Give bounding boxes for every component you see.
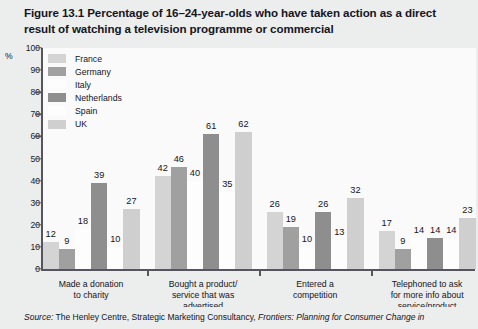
title-band: Figure 13.1 Percentage of 16–24-year-old… [0,0,478,44]
y-axis-tickmark-30 [35,202,42,203]
legend-item-netherlands[interactable]: Netherlands [48,91,158,104]
bar-germany-1[interactable]: 9 [59,249,75,269]
bar-value-label: 12 [46,229,56,239]
legend-item-italy[interactable]: Italy [48,78,158,91]
legend-swatch-uk [48,120,66,129]
x-axis-group-separator-tick [147,269,149,276]
legend-item-spain[interactable]: Spain [48,104,158,117]
bar-uk-2[interactable]: 62 [235,132,251,269]
bar-value-label: 32 [350,185,360,195]
bar-value-label: 23 [462,205,472,215]
bar-slot: 13 [331,48,347,269]
bar-france-3[interactable]: 26 [267,212,283,269]
bar-slot: 62 [235,48,251,269]
legend-label-uk: UK [75,119,87,129]
bar-uk-3[interactable]: 32 [347,198,363,269]
bar-italy-1[interactable]: 18 [75,229,91,269]
bar-value-label: 40 [190,168,200,178]
bar-slot: 17 [379,48,395,269]
bar-slot: 26 [267,48,283,269]
bar-spain-4[interactable]: 14 [443,238,459,269]
bar-slot: 10 [299,48,315,269]
source-prefix: Source: [24,312,53,322]
bar-germany-3[interactable]: 19 [283,227,299,269]
bar-france-4[interactable]: 17 [379,231,395,269]
bar-value-label: 27 [126,196,136,206]
bar-spain-1[interactable]: 10 [107,247,123,269]
y-axis-tickmark-50 [35,158,42,159]
y-axis-tickmark-70 [35,114,42,115]
source-band: Source: The Henley Centre, Strategic Mar… [0,307,478,329]
bar-value-label: 61 [206,121,216,131]
bar-group-4: 17914141423 [379,48,476,269]
bar-france-1[interactable]: 12 [43,242,59,269]
bar-slot: 19 [283,48,299,269]
legend: FranceGermanyItalyNetherlandsSpainUK [48,52,158,131]
bar-italy-2[interactable]: 40 [187,181,203,269]
legend-swatch-germany [48,67,66,76]
bar-germany-4[interactable]: 9 [395,249,411,269]
bar-slot: 14 [443,48,459,269]
y-axis-tickmark-100 [35,47,42,48]
bar-netherlands-3[interactable]: 26 [315,212,331,269]
bar-uk-4[interactable]: 23 [459,218,475,269]
bar-italy-3[interactable]: 10 [299,247,315,269]
bar-value-label: 39 [94,170,104,180]
bar-slot: 32 [347,48,363,269]
bar-value-label: 42 [158,163,168,173]
bar-value-label: 9 [400,236,405,246]
bar-uk-1[interactable]: 27 [123,209,139,269]
bar-netherlands-1[interactable]: 39 [91,183,107,269]
x-axis-label-line: competition [269,290,362,301]
bar-slot: 35 [219,48,235,269]
legend-label-italy: Italy [75,80,91,90]
bar-spain-2[interactable]: 35 [219,192,235,269]
bar-group-2: 424640613562 [155,48,252,269]
bar-spain-3[interactable]: 13 [331,240,347,269]
bar-slot: 14 [411,48,427,269]
bar-value-label: 17 [382,218,392,228]
bar-value-label: 18 [78,216,88,226]
bar-value-label: 26 [270,199,280,209]
legend-swatch-italy [48,80,66,89]
y-axis-tickmark-20 [35,224,42,225]
x-axis-label-line: Entered a [269,279,362,290]
y-axis-tickmark-10 [35,246,42,247]
bar-netherlands-2[interactable]: 61 [203,134,219,269]
x-axis-group-separator-tick [259,269,261,276]
legend-item-germany[interactable]: Germany [48,65,158,78]
bar-slot: 46 [171,48,187,269]
bar-italy-4[interactable]: 14 [411,238,427,269]
x-axis-label-line: Made a donation [45,279,138,290]
source-note: Source: The Henley Centre, Strategic Mar… [24,312,424,322]
legend-item-france[interactable]: France [48,52,158,65]
legend-label-netherlands: Netherlands [75,93,122,103]
page-title: Figure 13.1 Percentage of 16–24-year-old… [24,5,464,36]
bar-value-label: 14 [430,225,440,235]
legend-swatch-spain [48,106,66,115]
bar-slot: 23 [459,48,475,269]
bar-value-label: 10 [110,234,120,244]
bar-value-label: 26 [318,199,328,209]
bar-slot: 9 [395,48,411,269]
legend-item-uk[interactable]: UK [48,117,158,130]
legend-label-france: France [75,54,102,64]
legend-label-spain: Spain [75,106,97,116]
bar-value-label: 62 [238,119,248,129]
x-axis-line [41,269,475,271]
bar-value-label: 14 [414,225,424,235]
bar-slot: 61 [203,48,219,269]
bar-netherlands-4[interactable]: 14 [427,238,443,269]
y-axis-tickmark-80 [35,91,42,92]
bar-slot: 14 [427,48,443,269]
bar-value-label: 14 [446,225,456,235]
bar-germany-2[interactable]: 46 [171,167,187,269]
bar-slot: 40 [187,48,203,269]
legend-swatch-france [48,54,66,63]
x-axis-label-line: Bought a product/ [157,279,250,290]
x-axis-group-separator-tick [371,269,373,276]
bar-france-2[interactable]: 42 [155,176,171,269]
source-body: The Henley Centre, Strategic Marketing C… [53,312,258,322]
legend-swatch-netherlands [48,93,66,102]
source-publication: Frontiers: Planning for Consumer Change … [258,312,424,322]
